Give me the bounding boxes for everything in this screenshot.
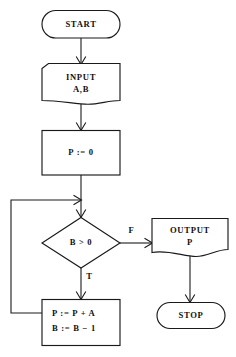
- connector-output-to-stop: [185, 253, 195, 303]
- connector-start-to-input: [76, 38, 86, 65]
- node-stop-label: STOP: [178, 310, 203, 320]
- node-loop-body[interactable]: P := P + A B := B − 1: [42, 300, 120, 346]
- node-input[interactable]: INPUT A,B: [42, 64, 120, 105]
- node-output[interactable]: OUTPUT P: [152, 219, 228, 257]
- node-output-label-line2: P: [187, 237, 193, 247]
- node-loop-body-label-line1: P := P + A: [52, 308, 96, 318]
- node-input-label-line2: A,B: [73, 84, 89, 94]
- node-decision-label: B > 0: [70, 237, 93, 247]
- flowchart-canvas: START INPUT A,B P := 0 B > 0 F T OUTPUT …: [0, 0, 236, 357]
- connector-decision-true-to-loop-body: [76, 268, 86, 300]
- node-init-label: P := 0: [68, 147, 93, 157]
- node-stop[interactable]: STOP: [157, 303, 225, 329]
- node-output-label-line1: OUTPUT: [170, 225, 210, 235]
- node-decision[interactable]: B > 0: [42, 218, 120, 269]
- node-init[interactable]: P := 0: [42, 131, 120, 176]
- node-loop-body-label-line2: B := B − 1: [52, 323, 96, 333]
- branch-label-true: T: [86, 271, 92, 281]
- node-start[interactable]: START: [42, 11, 120, 39]
- branch-label-false: F: [128, 225, 133, 235]
- node-start-label: START: [65, 19, 96, 29]
- connector-input-to-init: [76, 104, 86, 131]
- node-input-label-line1: INPUT: [66, 72, 96, 82]
- connector-init-to-decision: [76, 175, 86, 218]
- connector-decision-false-to-output: [120, 238, 153, 248]
